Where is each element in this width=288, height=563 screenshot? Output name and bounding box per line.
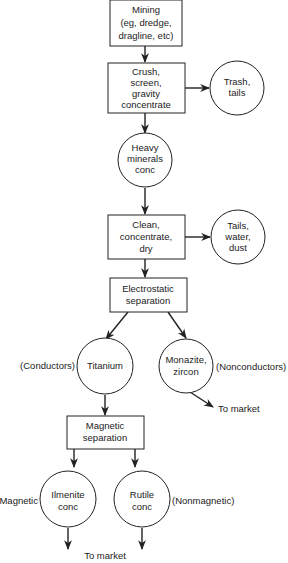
node-crush-line-4: concentrate (121, 99, 171, 110)
node-trash: Trash, tails (210, 61, 264, 115)
edge-electro-titanium (106, 312, 128, 339)
node-monazite-line-2: zircon (173, 366, 198, 377)
label-to-market-monazite: To market (218, 403, 260, 414)
node-crush-line-3: gravity (132, 88, 160, 99)
node-ilmenite-line-2: conc (58, 501, 78, 512)
node-mining-line-2: (eg, dredge, (120, 17, 171, 28)
node-mining-line-1: Mining (132, 4, 160, 15)
node-monazite-line-1: Monazite, (165, 354, 206, 365)
node-clean-line-1: Clean, (132, 219, 159, 230)
label-magnetic: Magnetic (0, 495, 38, 506)
node-clean: Clean, concentrate, dry (108, 215, 185, 259)
node-titanium-line-1: Titanium (87, 360, 123, 371)
node-mining-line-3: dragline, etc) (119, 30, 174, 41)
node-rutile-line-2: conc (132, 501, 152, 512)
node-crush-line-2: screen, (130, 77, 161, 88)
node-heavy-minerals: Heavy minerals conc (118, 133, 172, 187)
node-tails-line-3: dust (229, 242, 247, 253)
node-tails-water-dust: Tails, water, dust (211, 210, 265, 264)
node-rutile-line-1: Rutile (130, 489, 154, 500)
edge-monazite-market (190, 392, 213, 407)
node-magnetic-separation: Magnetic separation (67, 416, 144, 449)
node-electro-line-2: separation (126, 295, 170, 306)
label-nonmagnetic: (Nonmagnetic) (172, 495, 234, 506)
node-heavy-line-1: Heavy (132, 142, 159, 153)
node-electrostatic: Electrostatic separation (110, 278, 187, 312)
node-titanium: Titanium (77, 338, 133, 394)
node-clean-line-3: dry (139, 243, 152, 254)
node-magsep-line-2: separation (83, 432, 127, 443)
node-monazite-zircon: Monazite, zircon (159, 339, 213, 393)
node-trash-line-1: Trash, (224, 76, 251, 87)
node-crush-line-1: Crush, (132, 66, 160, 77)
node-rutile: Rutile conc (114, 471, 170, 527)
node-electro-line-1: Electrostatic (122, 283, 174, 294)
node-crush: Crush, screen, gravity concentrate (108, 63, 185, 113)
node-tails-line-1: Tails, (227, 220, 249, 231)
mineral-processing-flowchart: Mining (eg, dredge, dragline, etc) Crush… (0, 0, 288, 563)
node-trash-line-2: tails (229, 87, 246, 98)
label-nonconductors: (Nonconductors) (216, 361, 286, 372)
node-ilmenite: Ilmenite conc (40, 471, 96, 527)
node-clean-line-2: concentrate, (120, 231, 172, 242)
node-tails-line-2: water, (224, 231, 250, 242)
node-ilmenite-line-1: Ilmenite (51, 489, 84, 500)
node-magsep-line-1: Magnetic (86, 420, 125, 431)
node-mining: Mining (eg, dredge, dragline, etc) (110, 0, 182, 46)
label-to-market-bottom: To market (84, 550, 126, 561)
label-conductors: (Conductors) (20, 360, 75, 371)
edge-electro-monazite (168, 312, 186, 338)
node-heavy-line-3: conc (135, 164, 155, 175)
node-heavy-line-2: minerals (127, 153, 163, 164)
